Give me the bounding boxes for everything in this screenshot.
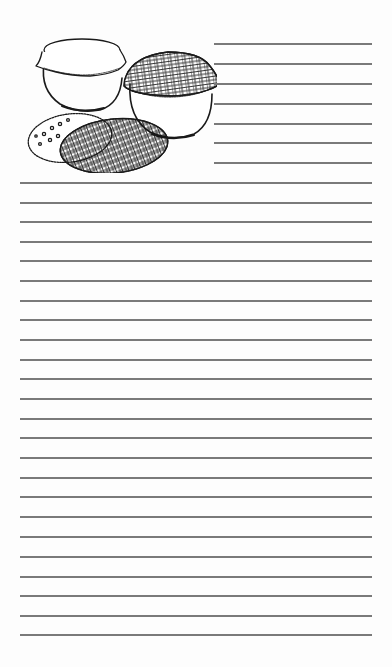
long-writing-line — [20, 457, 372, 458]
long-writing-line — [20, 260, 372, 261]
long-writing-line — [20, 202, 372, 203]
long-writing-line — [20, 477, 372, 478]
long-writing-line — [20, 634, 372, 635]
notepaper-page — [0, 0, 392, 667]
long-writing-line — [20, 300, 372, 301]
long-writing-line — [20, 496, 372, 497]
long-writing-lines — [0, 0, 392, 667]
long-writing-line — [20, 398, 372, 399]
long-writing-line — [20, 280, 372, 281]
long-writing-line — [20, 319, 372, 320]
long-writing-line — [20, 241, 372, 242]
long-writing-line — [20, 536, 372, 537]
long-writing-line — [20, 221, 372, 222]
long-writing-line — [20, 182, 372, 183]
long-writing-line — [20, 615, 372, 616]
long-writing-line — [20, 437, 372, 438]
long-writing-line — [20, 418, 372, 419]
long-writing-line — [20, 516, 372, 517]
long-writing-line — [20, 556, 372, 557]
long-writing-line — [20, 359, 372, 360]
long-writing-line — [20, 576, 372, 577]
long-writing-line — [20, 339, 372, 340]
long-writing-line — [20, 595, 372, 596]
long-writing-line — [20, 378, 372, 379]
